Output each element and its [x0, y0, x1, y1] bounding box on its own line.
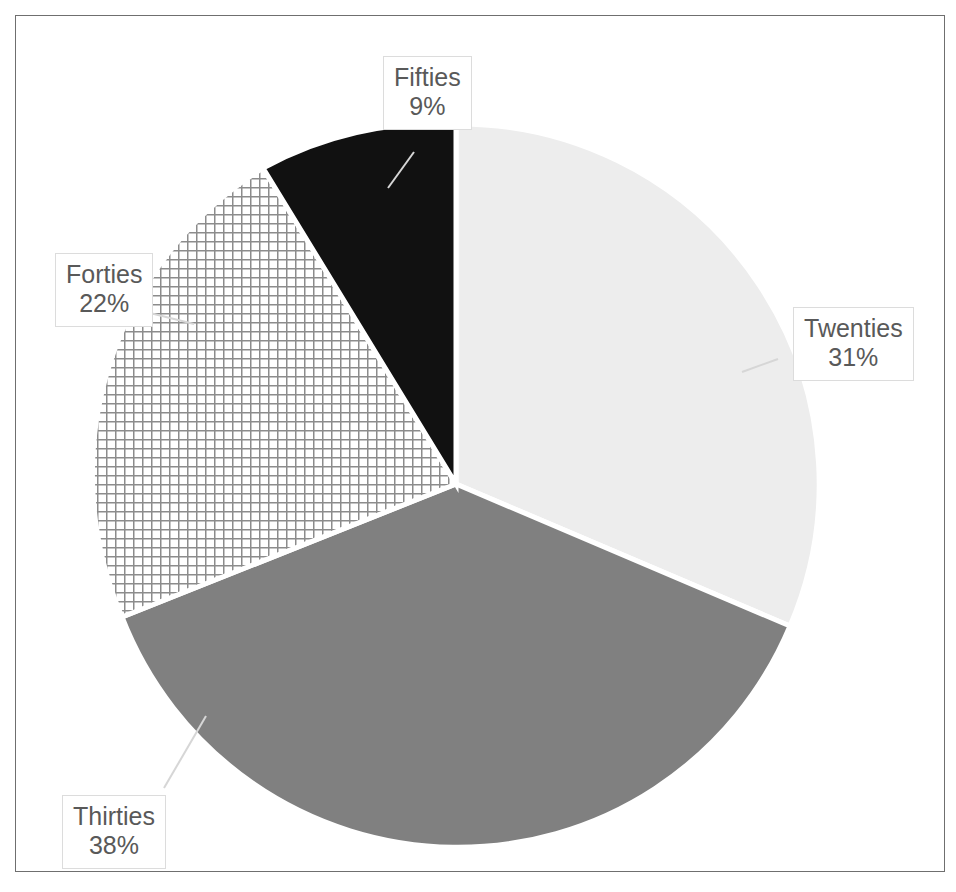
data-label-fifties[interactable]: Fifties 9%: [383, 56, 472, 130]
data-label-forties-value: 22%: [66, 289, 142, 318]
data-label-fifties-category: Fifties: [394, 63, 461, 92]
pie-chart: Fifties 9% Twenties 31% Forties 22% Thir…: [16, 16, 946, 873]
data-label-forties[interactable]: Forties 22%: [55, 253, 153, 327]
data-label-thirties-value: 38%: [73, 831, 155, 860]
data-label-thirties[interactable]: Thirties 38%: [62, 795, 166, 869]
data-label-twenties-value: 31%: [804, 343, 903, 372]
pie-chart-svg: [16, 16, 946, 873]
data-label-twenties[interactable]: Twenties 31%: [793, 307, 914, 381]
chart-plot-area: Fifties 9% Twenties 31% Forties 22% Thir…: [15, 15, 945, 872]
page-caption: [150, 874, 850, 892]
data-label-forties-category: Forties: [66, 260, 142, 289]
leader-line-thirties: [164, 716, 206, 788]
data-label-twenties-category: Twenties: [804, 314, 903, 343]
data-label-fifties-value: 9%: [394, 92, 461, 121]
data-label-thirties-category: Thirties: [73, 802, 155, 831]
